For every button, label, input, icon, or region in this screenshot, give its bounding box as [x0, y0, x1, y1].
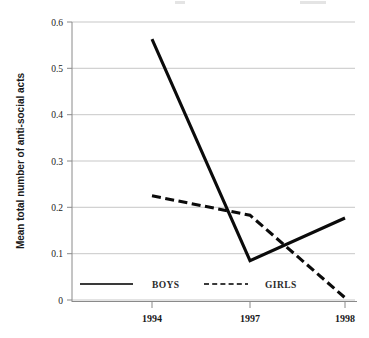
gridlines: [72, 22, 355, 300]
y-axis-title: Mean total number of anti-social acts: [15, 72, 26, 249]
x-tick-label-1994: 1994: [142, 313, 162, 324]
scan-artifact: [175, 1, 185, 4]
y-tick-label-0.2: 0.2: [51, 203, 63, 213]
chart-legend: BOYS GIRLS: [80, 280, 297, 290]
series-line-boys: [152, 39, 345, 261]
x-tick-label-1997: 1997: [240, 313, 260, 324]
chart-page: 0.6 0.5 0.4 0.3 0.2 0.1 0 1994 1997 1998…: [0, 0, 369, 338]
y-tick-label-0.5: 0.5: [51, 64, 63, 74]
y-tick-label-0.4: 0.4: [51, 110, 63, 120]
legend-label-boys: BOYS: [152, 280, 179, 290]
x-tick-marks: [152, 302, 345, 309]
line-chart: 0.6 0.5 0.4 0.3 0.2 0.1 0 1994 1997 1998…: [0, 0, 369, 338]
legend-label-girls: GIRLS: [265, 280, 297, 290]
scan-artifact: [300, 1, 326, 4]
y-tick-marks: [67, 22, 72, 300]
series-line-girls: [152, 196, 345, 298]
y-tick-label-0.6: 0.6: [51, 18, 63, 28]
y-tick-label-0.1: 0.1: [51, 249, 63, 259]
y-tick-label-0: 0: [58, 296, 63, 306]
x-tick-label-1998: 1998: [335, 313, 355, 324]
y-tick-label-0.3: 0.3: [51, 157, 63, 167]
